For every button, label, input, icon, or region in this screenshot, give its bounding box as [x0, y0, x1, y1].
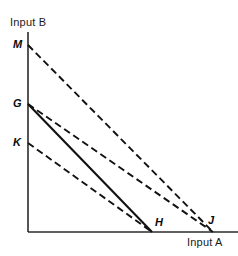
- line-K-H: [28, 143, 152, 232]
- line-G-H: [28, 104, 152, 232]
- point-label-k: K: [13, 136, 21, 148]
- isoquant-diagram: Input B Input A M G K H J: [0, 0, 238, 256]
- point-label-g: G: [13, 97, 22, 109]
- x-axis-label: Input A: [187, 236, 223, 248]
- y-axis-label: Input B: [10, 16, 46, 28]
- plot-canvas: [0, 0, 238, 256]
- point-label-m: M: [13, 38, 22, 50]
- line-G-J: [28, 104, 213, 232]
- point-label-j: J: [208, 214, 214, 226]
- point-label-h: H: [155, 216, 163, 228]
- line-M-J: [28, 45, 213, 232]
